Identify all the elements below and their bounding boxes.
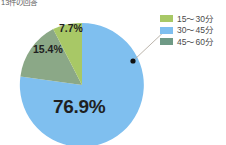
legend-item-45-60[interactable]: 45〜60分 [160,36,226,47]
slice-label-15-30: 7.7% [59,22,83,34]
legend-item-15-30[interactable]: 15〜30分 [160,13,226,24]
legend-item-30-45[interactable]: 30〜45分 [160,25,226,36]
legend-swatch-icon-30-45 [160,27,173,34]
slice-label-45-60: 15.4% [33,43,63,55]
chart-legend: 15〜30分 30〜45分 45〜60分 [160,13,226,48]
legend-label-15-30: 15〜30分 [177,14,214,24]
legend-label-30-45: 30〜45分 [177,25,214,35]
legend-label-45-60: 45〜60分 [177,37,214,47]
slice-label-30-45: 76.9% [53,96,105,118]
legend-swatch-icon-15-30 [160,15,173,22]
pie-chart-figure: 13件の回答 76.9% 15.4% 7.7% 15〜30分 30〜45分 45… [0,0,226,145]
legend-swatch-icon-45-60 [160,38,173,45]
callout-dot-marker [130,58,135,63]
